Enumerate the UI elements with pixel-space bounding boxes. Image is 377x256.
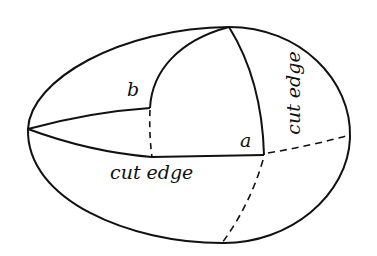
label-cut-edge-right: cut edge <box>282 48 304 138</box>
dashed-a-to-bottom <box>222 160 263 243</box>
cut-edge-bottom-line <box>28 129 264 157</box>
label-cut-edge-bottom: cut edge <box>110 161 193 183</box>
label-a: a <box>240 129 251 151</box>
dashed-below-b <box>150 110 152 157</box>
edge-left-to-b <box>28 108 150 129</box>
label-b: b <box>127 78 139 100</box>
diagram-canvas: b a cut edge cut edge <box>0 0 377 256</box>
egg-diagram-svg <box>0 0 377 256</box>
arc-b-to-top <box>150 27 229 108</box>
dashed-a-to-right <box>268 135 350 153</box>
